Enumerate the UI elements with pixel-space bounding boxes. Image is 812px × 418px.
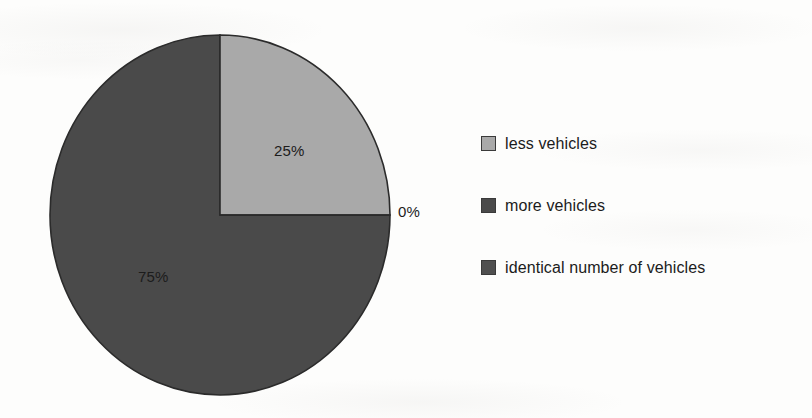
legend-swatch-icon (481, 198, 496, 213)
legend-item-identical-number-of-vehicles[interactable]: identical number of vehicles (481, 256, 801, 279)
legend-swatch-icon (481, 260, 496, 275)
legend-swatch-icon (481, 136, 496, 151)
legend-item-more-vehicles[interactable]: more vehicles (481, 194, 801, 217)
pie-slice-label-identical-number-of-vehicles: 0% (398, 203, 420, 220)
legend-item-label: less vehicles (505, 135, 597, 153)
legend-item-less-vehicles[interactable]: less vehicles (481, 132, 801, 155)
pie-slice-less-vehicles[interactable] (220, 35, 390, 215)
pie-chart-figure: 25% 75% 0% less vehicles more vehicles i… (0, 0, 812, 418)
legend-item-label: more vehicles (505, 197, 605, 215)
chart-legend: less vehicles more vehicles identical nu… (481, 132, 801, 279)
pie-slice-label-less-vehicles: 25% (274, 142, 305, 159)
legend-item-label: identical number of vehicles (505, 259, 705, 277)
pie-slice-label-more-vehicles: 75% (138, 268, 169, 285)
